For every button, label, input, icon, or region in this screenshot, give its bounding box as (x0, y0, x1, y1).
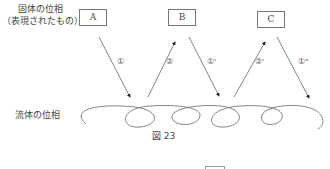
partial-box (205, 166, 225, 169)
figure-caption: 図 23 (152, 129, 175, 142)
arrow-label-1pp: ①" (298, 57, 309, 66)
box-a: A (79, 9, 107, 26)
box-b: B (168, 9, 196, 26)
arrow-1pp (277, 37, 309, 98)
box-c: C (257, 11, 285, 28)
arrow-1 (99, 37, 130, 97)
arrow-2 (148, 42, 175, 97)
arrow-2p (234, 42, 265, 97)
arrow-label-2p: ②' (255, 57, 264, 66)
fluid-phase-label: 流体の位相 (15, 108, 60, 121)
arrow-label-2: ② (166, 57, 173, 66)
arrow-label-1p: ①' (207, 57, 216, 66)
solid-phase-sublabel: （表現されたもの） (2, 14, 83, 27)
arrow-label-1: ① (117, 57, 124, 66)
arrow-1p (189, 37, 219, 96)
fluid-spiral (81, 105, 323, 129)
